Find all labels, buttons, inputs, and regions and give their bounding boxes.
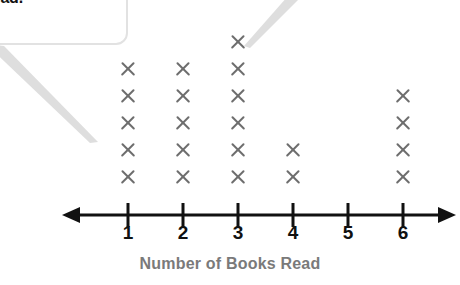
x-mark [393, 136, 413, 163]
x-mark [228, 109, 248, 136]
column-2 [173, 55, 193, 190]
column-4 [283, 136, 303, 190]
x-mark [228, 163, 248, 190]
x-mark [283, 163, 303, 190]
x-mark [228, 82, 248, 109]
right-arrow-icon [438, 207, 456, 223]
x-mark [173, 163, 193, 190]
tick-label-3: 3 [223, 222, 253, 244]
x-mark [228, 136, 248, 163]
tick-label-4: 4 [278, 222, 308, 244]
x-mark [173, 82, 193, 109]
x-mark [393, 82, 413, 109]
tick-label-1: 1 [113, 222, 143, 244]
tick-label-2: 2 [168, 222, 198, 244]
dot-plot-figure: …es the …ooks read. [0, 0, 460, 285]
x-mark [173, 55, 193, 82]
left-arrow-icon [62, 207, 80, 223]
column-6 [393, 82, 413, 190]
x-mark [173, 109, 193, 136]
x-mark [228, 55, 248, 82]
x-mark [393, 163, 413, 190]
callout-tail-top-icon [224, 0, 304, 54]
tick-label-6: 6 [388, 222, 418, 244]
x-mark [118, 163, 138, 190]
axis-title: Number of Books Read [0, 255, 460, 273]
callout-tail-left-icon [0, 44, 136, 144]
x-mark [283, 136, 303, 163]
x-mark [393, 109, 413, 136]
tick-label-5: 5 [333, 222, 363, 244]
x-mark [173, 136, 193, 163]
callout-bubble: …es the …ooks read. [0, 0, 128, 45]
callout-text: …es the …ooks read. [0, 0, 120, 7]
